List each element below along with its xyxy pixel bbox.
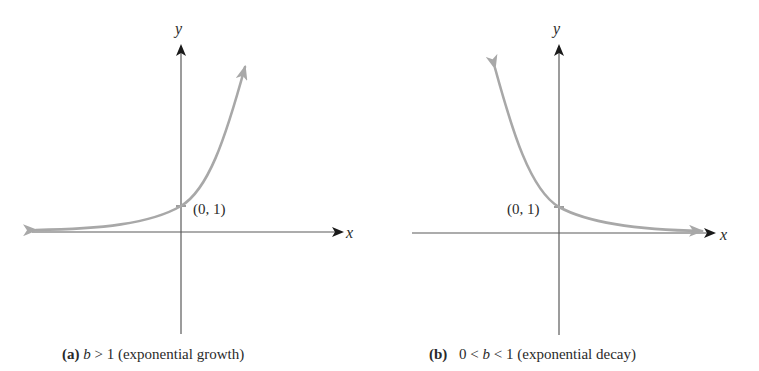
panel-a-growth: y x (0, 1) (a) b > 1 (exponential growth… [32, 20, 353, 363]
y-axis-label-b: y [551, 20, 561, 38]
caption-b-condition: < 1 (exponential decay) [494, 346, 636, 363]
caption-b-prefix: 0 < [459, 346, 482, 362]
point-label-a: (0, 1) [193, 201, 226, 218]
x-axis-label-a: x [345, 224, 353, 241]
caption-a-var: b [83, 346, 91, 362]
caption-a: (a) b > 1 (exponential growth) [62, 346, 244, 363]
caption-a-tag: (a) [62, 346, 80, 363]
caption-b-tag: (b) [429, 346, 447, 363]
x-axis-label-b: x [719, 226, 727, 243]
y-axis-label-a: y [173, 20, 183, 38]
figure-canvas: y x (0, 1) (a) b > 1 (exponential growth… [0, 0, 759, 371]
panel-b-decay: y x (0, 1) (b) 0 < b < 1 (exponential de… [412, 20, 727, 363]
caption-b-var: b [483, 346, 491, 362]
point-label-b: (0, 1) [507, 201, 540, 218]
caption-b: (b) 0 < b < 1 (exponential decay) [429, 346, 636, 363]
caption-a-condition: > 1 (exponential growth) [95, 346, 245, 363]
